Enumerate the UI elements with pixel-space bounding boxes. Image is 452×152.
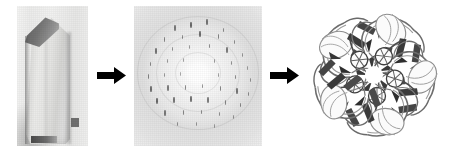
crystal-left-edge	[25, 36, 30, 144]
central-pore	[365, 66, 383, 84]
crystal-scale-bar	[31, 136, 57, 143]
crystal-center-edge	[45, 30, 48, 144]
arrow-crystal-to-diffraction	[97, 67, 126, 84]
arrow-diffraction-to-structure	[270, 67, 299, 84]
panel-crystal-photograph	[17, 6, 88, 146]
panel-protein-structure	[303, 4, 445, 148]
crystal-right-edge	[65, 32, 71, 144]
pentamer-ribbon-diagram	[303, 4, 445, 148]
detector-vignette	[134, 6, 262, 146]
panel-diffraction-pattern	[134, 6, 262, 146]
crystallography-workflow-figure	[0, 0, 452, 152]
crystal-edge-artifact	[71, 118, 79, 127]
